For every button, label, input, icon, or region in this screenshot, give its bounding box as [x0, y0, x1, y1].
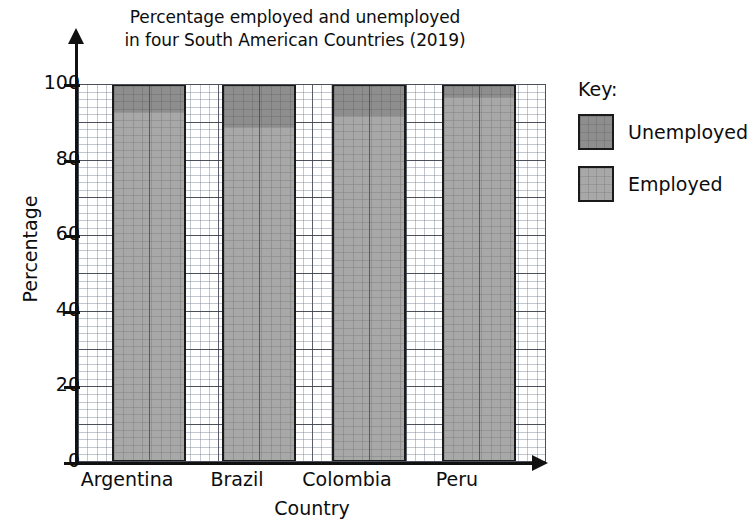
bar-midline: [369, 116, 370, 460]
legend-title: Key:: [578, 78, 748, 100]
bars-layer: [78, 84, 546, 462]
y-tick-label: 80: [34, 147, 80, 169]
legend-label-unemployed: Unemployed: [628, 121, 748, 143]
legend-swatch-employed-icon: [578, 166, 614, 202]
bar-midline: [149, 86, 150, 113]
y-axis-title: Percentage: [19, 174, 41, 324]
bar-segment-unemployed-brazil[interactable]: [224, 86, 294, 131]
bar-midline: [149, 112, 150, 460]
bar-segment-employed-brazil[interactable]: [224, 127, 294, 460]
y-axis-line: [75, 40, 78, 464]
legend-item-employed[interactable]: Employed: [578, 166, 748, 202]
bar-segment-employed-colombia[interactable]: [334, 116, 404, 460]
x-axis-line: [64, 462, 534, 465]
chart-title-line-1: Percentage employed and unemployed: [60, 6, 530, 29]
legend-item-unemployed[interactable]: Unemployed: [578, 114, 748, 150]
bar-segment-employed-argentina[interactable]: [114, 112, 184, 460]
chart-title-line-2: in four South American Countries (2019): [60, 29, 530, 52]
y-tick-label: 100: [34, 71, 80, 93]
bar-group-colombia: [332, 84, 406, 462]
legend-swatch-unemployed-icon: [578, 114, 614, 150]
legend: Key: Unemployed Employed: [578, 78, 748, 218]
x-axis-title: Country: [78, 497, 546, 519]
bar-segment-unemployed-colombia[interactable]: [334, 86, 404, 120]
bar-midline: [479, 97, 480, 460]
bar-group-argentina: [112, 84, 186, 462]
chart-title: Percentage employed and unemployed in fo…: [60, 6, 530, 52]
bar-midline: [259, 86, 260, 128]
bar-segment-employed-peru[interactable]: [444, 97, 514, 460]
bar-midline: [369, 86, 370, 117]
y-tick-label: 20: [34, 373, 80, 395]
bar-stack-argentina[interactable]: [112, 84, 186, 462]
chart-figure: Percentage employed and unemployed in fo…: [0, 0, 752, 531]
bar-stack-colombia[interactable]: [332, 84, 406, 462]
x-tick-label-peru: Peru: [372, 468, 542, 490]
bar-stack-brazil[interactable]: [222, 84, 296, 462]
bar-group-brazil: [222, 84, 296, 462]
bar-midline: [259, 127, 260, 460]
y-axis-arrow-icon: [68, 28, 84, 44]
bar-stack-peru[interactable]: [442, 84, 516, 462]
bar-group-peru: [442, 84, 516, 462]
legend-label-employed: Employed: [628, 173, 722, 195]
